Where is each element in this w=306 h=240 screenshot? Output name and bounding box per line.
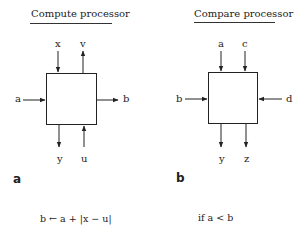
connection-arrows xyxy=(0,0,306,240)
